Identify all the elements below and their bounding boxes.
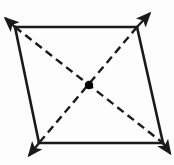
intersection-point [85,81,93,89]
geometry-figure-container [0,0,174,165]
geometry-diagram-svg [0,0,174,165]
